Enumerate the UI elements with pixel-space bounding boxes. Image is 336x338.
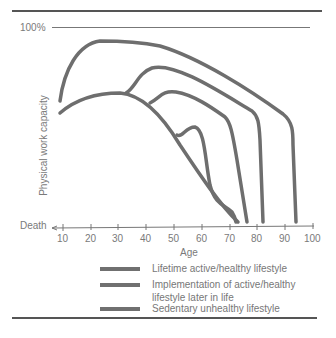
tick-50: 50 (168, 233, 179, 244)
legend-label: Implementation of active/healthy lifesty… (152, 278, 302, 304)
tick-60: 60 (196, 233, 207, 244)
tick-40: 40 (140, 233, 151, 244)
tick-30: 30 (112, 233, 123, 244)
tick-100: 100 (304, 233, 321, 244)
tick-90: 90 (279, 233, 290, 244)
legend-swatch (100, 283, 140, 287)
x-axis-label: Age (180, 247, 198, 258)
tick-10: 10 (57, 233, 68, 244)
legend-item-later-in-life: Implementation of active/healthy lifesty… (100, 278, 302, 304)
tick-80: 80 (251, 233, 262, 244)
tick-70: 70 (224, 233, 235, 244)
legend-label: Sedentary unhealthy lifestyle (152, 302, 322, 315)
legend-label: Lifetime active/healthy lifestyle (152, 262, 322, 275)
legend-swatch (100, 307, 140, 311)
legend-swatch (100, 267, 140, 271)
legend-item-lifetime-active: Lifetime active/healthy lifestyle (100, 262, 322, 275)
tick-20: 20 (85, 233, 96, 244)
legend-item-sedentary: Sedentary unhealthy lifestyle (100, 302, 322, 315)
